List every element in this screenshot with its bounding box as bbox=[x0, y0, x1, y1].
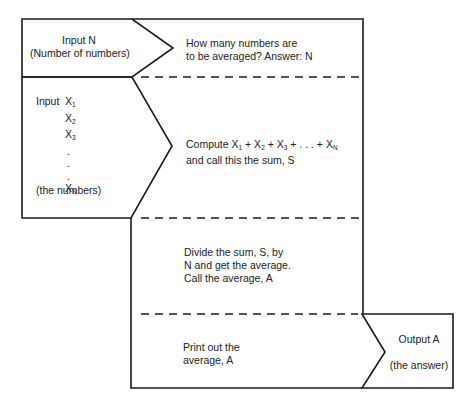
input-x-caption: (the numbers) bbox=[36, 184, 101, 197]
input-n-line2: (Number of numbers) bbox=[30, 47, 128, 60]
x-ellipsis-2: . bbox=[65, 157, 85, 170]
step4-line1: Print out the bbox=[183, 341, 240, 354]
step3-line2: N and get the average. bbox=[184, 259, 291, 272]
output-line1: Output A bbox=[386, 333, 452, 346]
output-arrow-shape bbox=[362, 314, 453, 388]
input-x-items: X1 X2 X3 . . . XN bbox=[65, 95, 85, 199]
step1-line1: How many numbers are bbox=[186, 37, 313, 50]
input-x-prefix: Input bbox=[36, 95, 59, 107]
step3-text: Divide the sum, S, by N and get the aver… bbox=[184, 246, 291, 285]
process-column-left-lower bbox=[131, 218, 362, 388]
step2-text: Compute X1 + X2 + X3 + . . . + XN and ca… bbox=[186, 138, 338, 167]
x-item-1: X1 bbox=[65, 95, 85, 112]
output-line2: (the answer) bbox=[384, 359, 454, 372]
step1-text: How many numbers are to be averaged? Ans… bbox=[186, 37, 313, 63]
step2-line1: Compute X1 + X2 + X3 + . . . + XN bbox=[186, 138, 338, 154]
input-n-label: Input N (Number of numbers) bbox=[30, 34, 128, 60]
step4-line2: average, A bbox=[183, 354, 240, 367]
step1-line2: to be averaged? Answer: N bbox=[186, 50, 313, 63]
step4-text: Print out the average, A bbox=[183, 341, 240, 367]
input-n-line1: Input N bbox=[30, 34, 128, 47]
step3-line3: Call the average, A bbox=[184, 272, 291, 285]
x-ellipsis-1: . bbox=[65, 145, 85, 158]
x-ellipsis-3: . bbox=[65, 170, 85, 183]
step3-line1: Divide the sum, S, by bbox=[184, 246, 291, 259]
x-item-3: X3 bbox=[65, 128, 85, 145]
input-x-label: Input bbox=[36, 95, 59, 108]
x-item-2: X2 bbox=[65, 112, 85, 129]
step2-line2: and call this the sum, S bbox=[186, 154, 338, 167]
